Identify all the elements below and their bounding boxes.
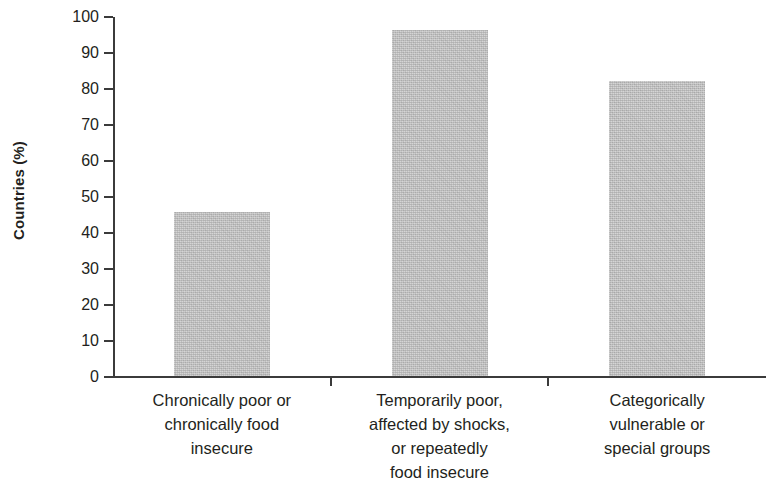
y-axis-tick	[104, 304, 113, 306]
x-axis-category-label-line: vulnerable or	[548, 412, 766, 436]
x-axis-category-label-line: special groups	[548, 436, 766, 460]
y-axis-tick-label: 70	[53, 117, 99, 133]
x-axis-category-labels: Chronically poor orchronically foodinsec…	[113, 388, 766, 493]
x-axis-category-label: Temporarily poor,affected by shocks,or r…	[331, 388, 549, 484]
y-axis-tick-label: 60	[53, 153, 99, 169]
y-axis-tick-label: 100	[53, 9, 99, 25]
bar	[609, 81, 705, 376]
y-axis-tick-label: 80	[53, 81, 99, 97]
x-axis-category-label-line: Temporarily poor,	[331, 388, 549, 412]
y-axis-tick	[104, 52, 113, 54]
x-axis-category-label: Categoricallyvulnerable orspecial groups	[548, 388, 766, 460]
x-axis-category-label-line: affected by shocks,	[331, 412, 549, 436]
x-axis-category-label-line: chronically food	[113, 412, 331, 436]
x-axis-category-label-line: Chronically poor or	[113, 388, 331, 412]
bar	[392, 30, 488, 376]
y-axis-tick-label: 0	[53, 369, 99, 385]
bar	[174, 212, 270, 376]
y-axis-tick	[104, 376, 113, 378]
y-axis-tick-label: 90	[53, 45, 99, 61]
x-axis-category-label-line: Categorically	[548, 388, 766, 412]
x-axis-category-label-line: or repeatedly	[331, 436, 549, 460]
x-axis-tick	[330, 377, 332, 386]
y-axis-title-text: Countries (%)	[10, 141, 27, 240]
y-axis-tick	[104, 88, 113, 90]
y-axis-title: Countries (%)	[0, 0, 36, 380]
x-axis-line	[113, 376, 766, 378]
x-axis-category-label-line: insecure	[113, 436, 331, 460]
y-axis-tick-label: 40	[53, 225, 99, 241]
y-axis-tick	[104, 268, 113, 270]
y-axis-tick-label: 30	[53, 261, 99, 277]
y-axis-tick-label: 50	[53, 189, 99, 205]
y-axis-tick-label: 10	[53, 333, 99, 349]
bar-chart-figure: Countries (%) 0102030405060708090100 Chr…	[0, 0, 766, 493]
y-axis-tick	[104, 232, 113, 234]
y-axis-tick-label: 20	[53, 297, 99, 313]
y-axis-tick	[104, 340, 113, 342]
y-axis-tick	[104, 16, 113, 18]
x-axis-tick	[547, 377, 549, 386]
x-axis-category-label-line: food insecure	[331, 460, 549, 484]
y-axis-tick	[104, 196, 113, 198]
plot-area: 0102030405060708090100	[113, 17, 766, 377]
y-axis-line	[113, 17, 115, 377]
y-axis-tick	[104, 160, 113, 162]
x-axis-category-label: Chronically poor orchronically foodinsec…	[113, 388, 331, 460]
y-axis-tick	[104, 124, 113, 126]
